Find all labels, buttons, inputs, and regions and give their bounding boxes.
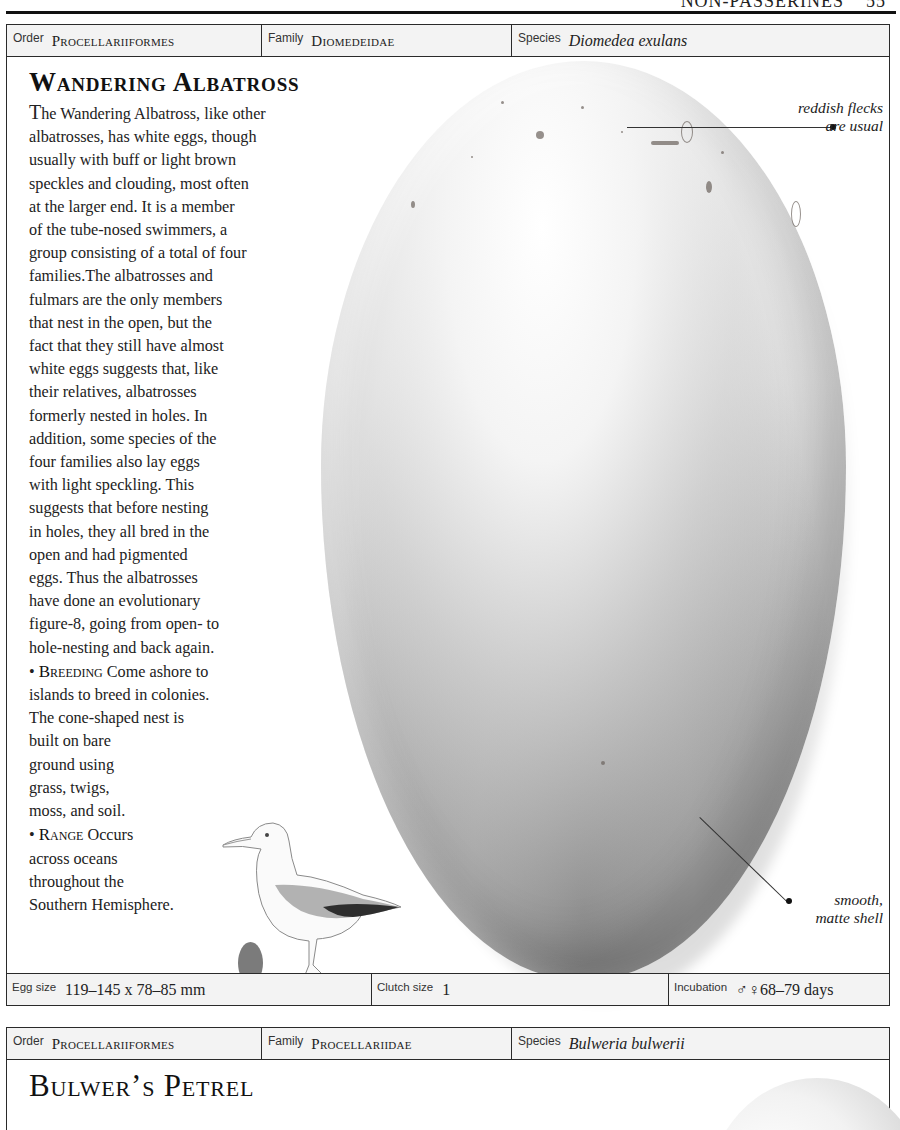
species-cell: Species Diomedea exulans [512,25,889,56]
running-head-section: NON-PASSERINES [681,0,844,11]
callout-smooth-shell: smooth, matte shell [815,891,883,927]
callout-dot-shell [786,898,792,904]
species-label: Species [518,1034,561,1048]
clutch-size-label: Clutch size [377,981,433,993]
entry-title: Wandering Albatross [29,67,299,98]
family-label: Family [268,1034,303,1048]
clutch-size-cell: Clutch size 1 [372,974,669,1005]
stats-row: Egg size 119–145 x 78–85 mm Clutch size … [7,973,889,1005]
entry-wandering-albatross: Order Procellariiformes Family Diomedeid… [6,24,890,1006]
species-label: Species [518,31,561,45]
breeding-section: • Breeding Come ashore to [29,660,329,684]
order-label: Order [13,31,44,45]
clutch-size-value: 1 [442,981,450,998]
order-label: Order [13,1034,44,1048]
entry-bulwers-petrel: Order Procellariiformes Family Procellar… [6,1027,890,1130]
page-number: 55 [866,0,886,11]
egg-image-partial [707,1078,900,1130]
family-value: Diomedeidae [311,33,394,49]
incubation-cell: Incubation ♂♀68–79 days [669,974,889,1005]
egg-size-value: 119–145 x 78–85 mm [65,981,205,998]
species-value: Diomedea exulans [569,32,688,49]
species-value: Bulweria bulwerii [569,1035,685,1052]
taxonomy-row: Order Procellariiformes Family Diomedeid… [7,25,889,57]
family-label: Family [268,31,303,45]
family-cell: Family Diomedeidae [262,25,512,56]
breeding-heading: Breeding [39,662,103,681]
callout-reddish-flecks: reddish flecks are usual [798,99,883,135]
order-value: Procellariiformes [52,1036,175,1052]
taxonomy-row: Order Procellariiformes Family Procellar… [7,1028,889,1060]
family-cell: Family Procellariidae [262,1028,512,1059]
incubation-value: ♂♀68–79 days [736,981,833,998]
species-cell: Species Bulweria bulwerii [512,1028,889,1059]
range-heading: Range [39,825,84,844]
incubation-label: Incubation [674,981,727,993]
egg-size-label: Egg size [12,981,56,993]
family-value: Procellariidae [311,1036,412,1052]
order-cell: Order Procellariiformes [7,25,262,56]
entry-body: The Wandering Albatross, like other alba… [29,101,329,917]
order-value: Procellariiformes [52,33,175,49]
order-cell: Order Procellariiformes [7,1028,262,1059]
top-rule [6,11,896,14]
dropcap: T [29,101,41,123]
egg-size-cell: Egg size 119–145 x 78–85 mm [7,974,372,1005]
entry-title: Bulwer’s Petrel [29,1068,254,1104]
